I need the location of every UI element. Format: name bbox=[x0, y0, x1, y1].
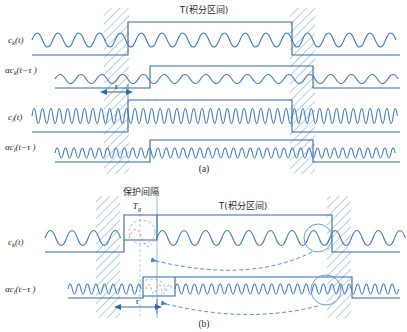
signal-label-cl-a: cl(t) bbox=[8, 112, 22, 123]
caption-a: (a) bbox=[199, 164, 210, 175]
figure-root: T(积分区间) ck(t) αck(t−τ ) τ cl(t) bbox=[0, 0, 407, 332]
panel-b-integration-title: T(积分区间) bbox=[218, 200, 268, 211]
caption-b: (b) bbox=[198, 319, 209, 330]
hatch-band-right-b bbox=[327, 196, 351, 318]
hatch-band-left-b bbox=[96, 196, 120, 318]
signal-label-ack-a: αck(t−τ ) bbox=[5, 65, 37, 76]
signal-label-acl-b: αcl(t−τ ) bbox=[5, 284, 36, 295]
panel-a-integration-title: T(积分区间) bbox=[179, 4, 229, 15]
signal-label-acl-a: αcl(t−τ ) bbox=[5, 142, 36, 153]
signal-label-ck-a: ck(t) bbox=[8, 35, 23, 46]
guard-interval-label: 保护间隔 bbox=[123, 186, 159, 197]
signal-label-ck-b: ck(t) bbox=[8, 237, 23, 248]
